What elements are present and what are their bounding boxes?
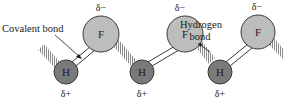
- hf-hydrogen-bond-diagram: H δ+ F δ− H δ+ F δ− H δ+ F δ− Covalent b…: [0, 0, 284, 100]
- fluorine-symbol: F: [98, 28, 104, 40]
- partial-positive-label: δ+: [61, 88, 72, 99]
- hydrogen-symbol: H: [216, 66, 224, 78]
- partial-negative-label: δ−: [252, 1, 263, 12]
- hydrogen-symbol: H: [138, 66, 146, 78]
- hydrogen-bond-label-line1: Hydrogen: [180, 19, 223, 30]
- fluorine-symbol: F: [255, 26, 261, 38]
- partial-negative-label: δ−: [96, 2, 107, 13]
- covalent-bond-label: Covalent bond: [2, 23, 64, 34]
- molecule-1: H δ+ F δ−: [54, 2, 119, 99]
- hydrogen-symbol: H: [62, 66, 70, 78]
- molecule-3: H δ+ F δ−: [208, 1, 275, 99]
- partial-positive-label: δ+: [137, 88, 148, 99]
- covalent-bond-arrow: [55, 35, 82, 59]
- covalent-bond-3: [226, 44, 252, 66]
- partial-positive-label: δ+: [215, 88, 226, 99]
- partial-negative-label: δ−: [175, 2, 186, 13]
- hydrogen-bond-label-line2: bond: [190, 31, 212, 42]
